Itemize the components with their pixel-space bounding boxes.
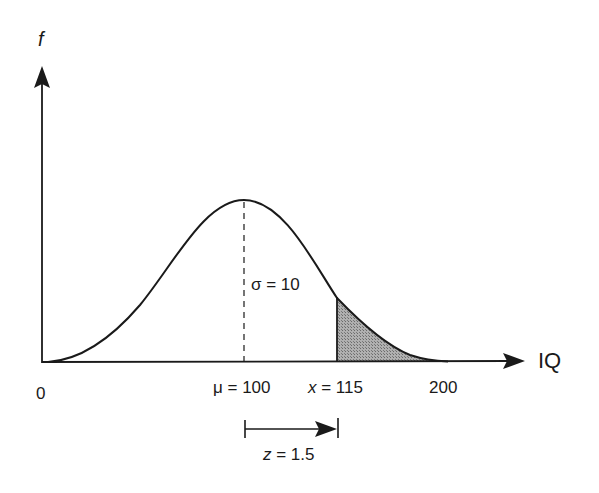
x-var: x [308, 378, 317, 397]
z-value: = 1.5 [272, 445, 315, 464]
normal-distribution-diagram [0, 0, 599, 493]
mean-label: μ = 100 [213, 378, 271, 398]
y-axis-label: f [38, 28, 44, 51]
x-value-label: x = 115 [308, 378, 363, 398]
bell-curve [48, 200, 448, 362]
x-value: = 115 [317, 378, 363, 397]
sigma-label: σ = 10 [251, 275, 300, 295]
origin-label: 0 [36, 384, 45, 404]
z-value-label: z = 1.5 [263, 445, 315, 465]
z-var: z [263, 445, 272, 464]
x-axis-label: IQ [538, 348, 561, 374]
shaded-tail-region [337, 298, 445, 362]
end-label: 200 [429, 378, 457, 398]
